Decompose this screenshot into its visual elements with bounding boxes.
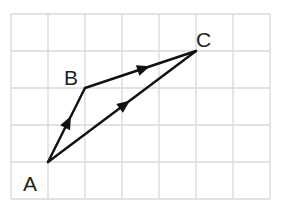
- point-label-c: C: [196, 28, 211, 51]
- point-label-a: A: [23, 172, 37, 195]
- arrowhead-icon: [136, 61, 152, 76]
- point-label-b: B: [64, 66, 78, 89]
- arrowhead-icon: [60, 114, 76, 131]
- grid: [11, 14, 270, 199]
- vector-diagram: A B C: [0, 0, 282, 208]
